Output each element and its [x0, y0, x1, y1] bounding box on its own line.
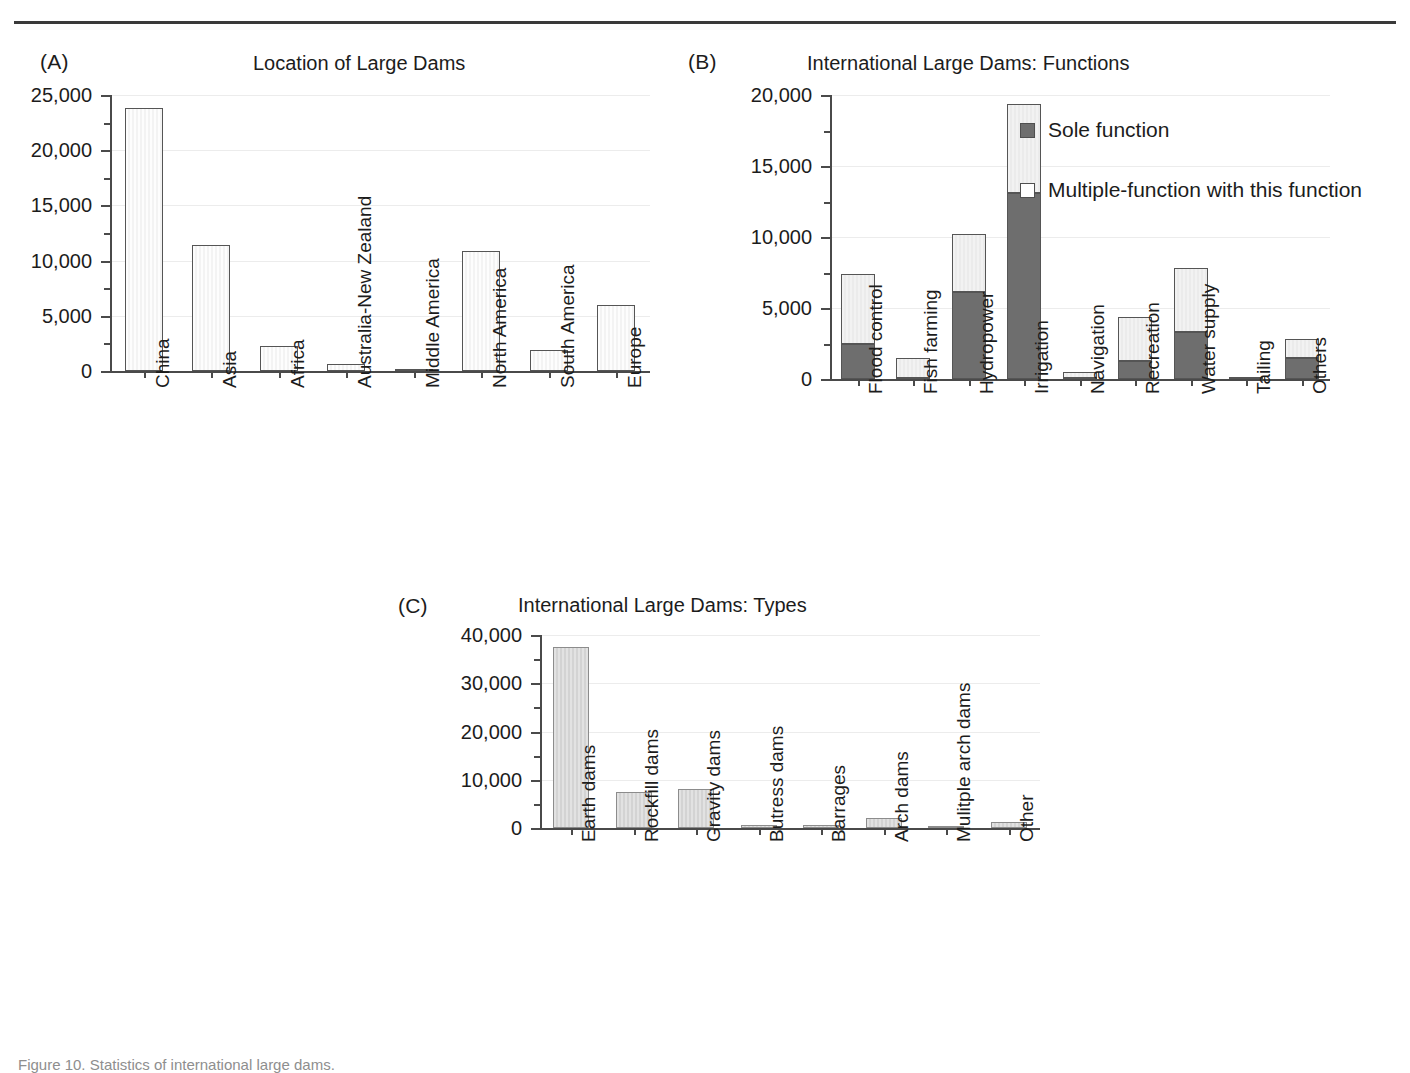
panel-c-y-axis	[540, 635, 542, 828]
y-tick-major	[101, 205, 110, 207]
panel-b-ytick-label: 0	[712, 368, 812, 391]
bar-china	[125, 108, 163, 371]
x-tick	[1302, 379, 1304, 386]
y-tick-major	[101, 95, 110, 97]
legend-swatch-sole-icon	[1020, 123, 1035, 138]
xlabel-europe: Europe	[624, 327, 646, 388]
y-tick-minor	[824, 273, 830, 275]
panel-b-ytick-label: 5,000	[712, 297, 812, 320]
xlabel-recreation: Recreation	[1142, 302, 1164, 394]
x-tick	[946, 828, 948, 835]
panel-a-ytick-label: 20,000	[0, 139, 92, 162]
panel-a-location-of-large-dams: (A) Location of Large Dams 25,000 20,000…	[0, 0, 670, 580]
y-tick-major	[821, 379, 830, 381]
panel-a-ytick-label: 15,000	[0, 194, 92, 217]
xlabel-arch-dams: Arch dams	[891, 751, 913, 842]
x-tick	[346, 371, 348, 378]
xlabel-butress-dams: Butress dams	[766, 726, 788, 842]
gridline	[110, 150, 650, 151]
legend-label-sole-function: Sole function	[1048, 118, 1169, 142]
x-tick	[1009, 828, 1011, 835]
y-tick-major	[821, 237, 830, 239]
y-tick-major	[531, 732, 540, 734]
gridline	[830, 237, 1330, 238]
gridline	[830, 95, 1330, 96]
bar-hydropower-multiple	[952, 234, 986, 292]
panel-c-ytick-label: 0	[422, 817, 522, 840]
xlabel-others: Others	[1309, 337, 1331, 394]
y-tick-major	[531, 780, 540, 782]
y-tick-major	[821, 166, 830, 168]
xlabel-asia: Asia	[219, 351, 241, 388]
x-tick	[1246, 379, 1248, 386]
panel-a-ytick-label: 25,000	[0, 84, 92, 107]
y-tick-minor	[824, 344, 830, 346]
panel-b-y-axis	[830, 95, 832, 379]
xlabel-north-america: North America	[489, 268, 511, 388]
xlabel-china: China	[152, 338, 174, 388]
panel-b-ytick-label: 10,000	[712, 226, 812, 249]
panel-b-ytick-label: 15,000	[712, 155, 812, 178]
xlabel-hydropower: Hydropower	[976, 292, 998, 394]
panel-b-title: International Large Dams: Functions	[807, 52, 1129, 75]
legend-swatch-multiple-icon	[1020, 183, 1035, 198]
panel-a-ytick-label: 0	[0, 360, 92, 383]
y-tick-minor	[104, 233, 110, 235]
panel-c-ytick-label: 40,000	[422, 624, 522, 647]
x-tick	[211, 371, 213, 378]
x-tick	[616, 371, 618, 378]
x-tick	[549, 371, 551, 378]
gridline	[110, 95, 650, 96]
xlabel-australia-new-zealand: Australia-New Zealand	[354, 196, 376, 388]
x-tick	[1080, 379, 1082, 386]
y-tick-major	[821, 308, 830, 310]
xlabel-south-america: South America	[557, 264, 579, 388]
y-tick-major	[101, 371, 110, 373]
y-tick-major	[101, 150, 110, 152]
panel-c-ytick-label: 10,000	[422, 768, 522, 791]
y-tick-minor	[104, 178, 110, 180]
panel-b-tag: (B)	[688, 50, 717, 74]
panel-c-ytick-label: 30,000	[422, 672, 522, 695]
panel-a-ytick-label: 5,000	[0, 304, 92, 327]
xlabel-other: Other	[1016, 794, 1038, 842]
y-tick-major	[531, 683, 540, 685]
panel-b-ytick-label: 20,000	[712, 84, 812, 107]
xlabel-flood-control: Flood control	[865, 284, 887, 394]
panel-a-ytick-label: 10,000	[0, 249, 92, 272]
x-tick	[144, 371, 146, 378]
panel-a-y-axis	[110, 95, 112, 371]
legend-label-multiple-function: Multiple-function with this function	[1048, 178, 1362, 202]
y-tick-major	[531, 635, 540, 637]
y-tick-minor	[104, 123, 110, 125]
gridline	[110, 261, 650, 262]
x-tick	[696, 828, 698, 835]
xlabel-navigation: Navigation	[1087, 304, 1109, 394]
x-tick	[913, 379, 915, 386]
panel-a-title: Location of Large Dams	[253, 52, 465, 75]
y-tick-minor	[534, 756, 540, 758]
xlabel-water-supply: Water supply	[1198, 284, 1220, 394]
gridline	[830, 308, 1330, 309]
xlabel-tailing: Tailing	[1253, 340, 1275, 394]
y-tick-major	[101, 316, 110, 318]
figure-caption: Figure 10. Statistics of international l…	[18, 1056, 335, 1070]
legend-entry-sole-function: Sole function	[1020, 118, 1169, 142]
x-tick	[1191, 379, 1193, 386]
x-tick	[1135, 379, 1137, 386]
y-tick-minor	[104, 343, 110, 345]
y-tick-minor	[824, 131, 830, 133]
x-tick	[884, 828, 886, 835]
xlabel-mulitple-arch-dams: Mulitple arch dams	[953, 683, 975, 842]
y-tick-major	[531, 828, 540, 830]
y-tick-major	[101, 261, 110, 263]
x-tick	[858, 379, 860, 386]
xlabel-africa: Africa	[287, 339, 309, 388]
gridline	[830, 166, 1330, 167]
x-tick	[1024, 379, 1026, 386]
xlabel-earth-dams: Earth dams	[578, 745, 600, 842]
x-tick	[414, 371, 416, 378]
y-tick-minor	[104, 288, 110, 290]
x-tick	[969, 379, 971, 386]
panel-c-title: International Large Dams: Types	[518, 594, 807, 617]
